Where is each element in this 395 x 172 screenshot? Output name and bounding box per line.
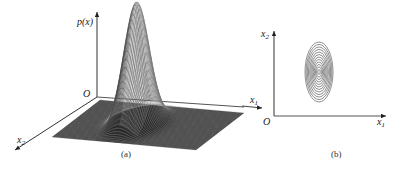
pb-x2-label: x2	[260, 28, 269, 41]
contour-ellipse	[306, 45, 332, 100]
contour-ellipse	[305, 42, 333, 102]
contour-ellipse	[309, 50, 330, 95]
contour-ellipses	[305, 42, 333, 102]
panel-a: p(x) O x2 (a)	[15, 2, 244, 159]
contour-ellipse	[310, 52, 329, 92]
pb-x1stub-label: x1	[249, 94, 258, 107]
contour-ellipse	[317, 67, 322, 77]
pa-origin-label: O	[83, 88, 90, 99]
pa-caption: (a)	[121, 149, 131, 159]
pb-x1-label: x1	[376, 116, 385, 129]
contour-ellipse	[318, 70, 320, 75]
panel-b: x1 x2 O x1 (b)	[242, 28, 386, 159]
pa-pz-label: p(x)	[76, 16, 94, 28]
pa-x2-label: x2	[16, 134, 25, 147]
pb-x1-stub	[242, 106, 262, 108]
contour-ellipse	[313, 60, 325, 85]
figure: p(x) O x2 (a) x1 x2 O x1 (b)	[0, 0, 395, 172]
pb-caption: (b)	[331, 149, 342, 159]
pb-origin-label: O	[263, 116, 270, 127]
